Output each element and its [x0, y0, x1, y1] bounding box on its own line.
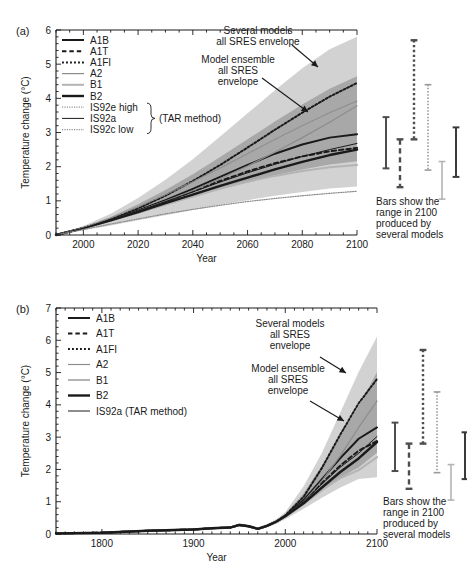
- bars-note-line: Bars show the: [376, 196, 440, 207]
- legend-label-is92a: IS92a: [90, 113, 117, 124]
- x-tick-label: 2000: [274, 538, 297, 549]
- x-tick-label: 2060: [236, 239, 259, 250]
- bars-note-line: range in 2100: [376, 207, 438, 218]
- x-tick-label: 2040: [182, 239, 205, 250]
- legend-label-is92c-low: IS92c low: [90, 124, 134, 135]
- bars-note-line: Bars show the: [383, 496, 447, 507]
- y-tick-label: 4: [45, 399, 51, 410]
- x-tick-label: 2080: [291, 239, 314, 250]
- legend-label-b1: B1: [96, 375, 109, 386]
- legend-label-b1: B1: [90, 79, 103, 90]
- bars-note-line: produced by: [376, 218, 431, 229]
- panel-label: (b): [16, 303, 29, 315]
- y-tick-label: 7: [45, 303, 51, 314]
- annotation-model-ensemble-line: envelope: [218, 76, 259, 87]
- legend-label-a1fi: A1FI: [90, 57, 111, 68]
- temperature-projection-figure: 0123456200020202040206020802100YearTempe…: [0, 0, 467, 583]
- y-tick-label: 2: [45, 161, 51, 172]
- legend-label-a1b: A1B: [96, 313, 115, 324]
- annotation-several-models-line: Several models: [224, 25, 293, 36]
- x-axis-title: Year: [206, 552, 227, 563]
- y-tick-label: 3: [45, 127, 51, 138]
- legend-bracket-label: (TAR method): [159, 113, 221, 124]
- annotation-model-ensemble-line: all SRES: [218, 65, 258, 76]
- annotation-several-models-line: envelope: [270, 340, 311, 351]
- x-tick-label: 2020: [127, 239, 150, 250]
- y-tick-label: 0: [45, 230, 51, 241]
- x-tick-label: 2100: [346, 239, 369, 250]
- y-tick-label: 3: [45, 432, 51, 443]
- legend-label-a1t: A1T: [90, 46, 108, 57]
- bars-note-line: several models: [376, 229, 443, 240]
- legend-label-is92e-high: IS92e high: [90, 102, 138, 113]
- annotation-several-models-line: Several models: [256, 318, 325, 329]
- figure-canvas: 0123456200020202040206020802100YearTempe…: [0, 0, 467, 583]
- bars-note-line: produced by: [383, 518, 438, 529]
- x-axis-title: Year: [196, 253, 217, 264]
- y-tick-label: 4: [45, 93, 51, 104]
- x-tick-label: 1800: [91, 538, 114, 549]
- legend-label-b2: B2: [90, 91, 103, 102]
- legend-label-a1t: A1T: [96, 328, 114, 339]
- y-axis-title: Temperature change (°C): [20, 76, 31, 188]
- bars-note-line: several models: [383, 529, 450, 540]
- x-tick-label: 1900: [182, 538, 205, 549]
- y-tick-label: 1: [45, 496, 51, 507]
- y-tick-label: 6: [45, 25, 51, 36]
- legend-label-a1fi: A1FI: [96, 344, 117, 355]
- y-tick-label: 0: [45, 529, 51, 540]
- annotation-model-ensemble-line: Model ensemble: [201, 54, 275, 65]
- legend-label-a1b: A1B: [90, 35, 109, 46]
- y-tick-label: 6: [45, 335, 51, 346]
- y-tick-label: 5: [45, 367, 51, 378]
- annotation-several-models-line: all SRES envelope: [216, 36, 300, 47]
- annotation-model-ensemble-line: Model ensemble: [251, 363, 325, 374]
- y-tick-label: 5: [45, 59, 51, 70]
- y-axis-title: Temperature change (°C): [20, 365, 31, 477]
- bars-note-line: range in 2100: [383, 507, 445, 518]
- annotation-model-ensemble-line: envelope: [268, 385, 309, 396]
- annotation-several-models-line: all SRES: [270, 329, 310, 340]
- legend-label-is92a-tar-method: IS92a (TAR method): [96, 406, 187, 417]
- panel-label: (a): [16, 25, 29, 37]
- legend-label-b2: B2: [96, 390, 109, 401]
- legend-label-a2: A2: [96, 359, 109, 370]
- annotation-model-ensemble-line: all SRES: [268, 374, 308, 385]
- y-tick-label: 2: [45, 464, 51, 475]
- x-tick-label: 2000: [72, 239, 95, 250]
- legend-label-a2: A2: [90, 68, 103, 79]
- y-tick-label: 1: [45, 195, 51, 206]
